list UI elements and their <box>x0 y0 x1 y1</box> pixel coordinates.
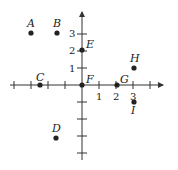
point-b-label: B <box>52 17 61 30</box>
coordinate-plane: 1 2 3 1 2 3 A B C D E F G H I <box>0 0 178 170</box>
point-b <box>54 30 59 35</box>
point-h <box>131 65 136 70</box>
point-d <box>53 135 58 140</box>
point-e <box>79 47 84 52</box>
point-g <box>114 82 119 87</box>
point-i-label: I <box>130 104 136 117</box>
point-g-label: G <box>120 73 129 86</box>
y-tick-label-1: 1 <box>69 63 75 74</box>
point-c-label: C <box>36 71 45 84</box>
tick-labels: 1 2 3 1 2 3 <box>69 28 136 102</box>
point-f <box>79 82 84 87</box>
point-f-label: F <box>85 73 94 86</box>
point-h-label: H <box>129 52 140 65</box>
y-tick-label-3: 3 <box>69 28 75 39</box>
x-tick-label-1: 1 <box>96 91 102 102</box>
point-a-label: A <box>26 17 35 30</box>
y-tick-label-2: 2 <box>69 45 75 56</box>
x-tick-label-2: 2 <box>113 91 119 102</box>
point-d-label: D <box>51 122 61 135</box>
points: A B C D E F G H I <box>26 17 140 141</box>
point-a <box>28 30 33 35</box>
point-e-label: E <box>85 38 94 51</box>
